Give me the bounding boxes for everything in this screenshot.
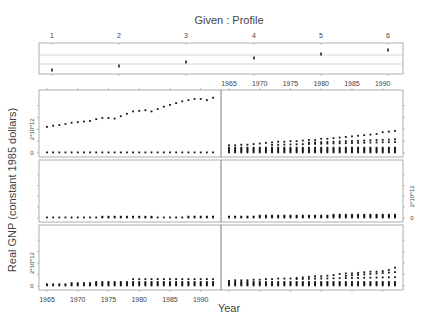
x-tick: 1975 — [101, 296, 117, 303]
x-tick: 1965 — [39, 296, 55, 303]
x-tick: 1970 — [70, 296, 86, 303]
given-title: Given : Profile — [194, 14, 263, 26]
y-tick: 2*10^12 — [29, 252, 35, 274]
y-tick: 0 — [410, 215, 414, 221]
given-tick: 5 — [319, 32, 323, 39]
given-tick: 6 — [386, 32, 390, 39]
x-tick: 1980 — [313, 80, 329, 87]
top-x-tick-labels: 196519701975198019851990 — [47, 80, 391, 90]
panel — [221, 225, 403, 290]
panel — [39, 160, 221, 222]
given-interval-bars — [39, 49, 403, 72]
x-tick: 1975 — [283, 80, 299, 87]
x-tick: 1990 — [193, 296, 209, 303]
x-tick: 1990 — [375, 80, 391, 87]
coplot-figure: Given : Profile 123456 19651970197519801… — [0, 0, 430, 327]
panels: 02*10^1202*10^1202*10^12 — [29, 90, 415, 290]
given-tick: 1 — [50, 32, 54, 39]
x-tick: 1985 — [344, 80, 360, 87]
given-tick: 2 — [117, 32, 121, 39]
y-tick: 2*10^12 — [29, 118, 35, 140]
y-tick: 0 — [30, 283, 34, 289]
y-tick: 2*10^12 — [409, 185, 415, 207]
panel — [39, 225, 221, 290]
x-tick: 1985 — [162, 296, 178, 303]
x-tick: 1965 — [221, 80, 237, 87]
bottom-x-tick-labels: 196519701975198019851990 — [39, 290, 382, 303]
y-axis-label: Real GNP (constant 1985 dollars) — [6, 108, 18, 272]
panel — [221, 90, 403, 157]
panel — [221, 160, 403, 222]
y-tick: 0 — [30, 150, 34, 156]
given-tick: 4 — [252, 32, 256, 39]
given-tick: 3 — [184, 32, 188, 39]
x-tick: 1980 — [131, 296, 147, 303]
x-axis-label: Year — [218, 302, 241, 314]
given-tick-labels: 123456 — [50, 32, 390, 76]
panel — [39, 90, 221, 157]
x-tick: 1970 — [252, 80, 268, 87]
given-panel — [39, 43, 403, 74]
